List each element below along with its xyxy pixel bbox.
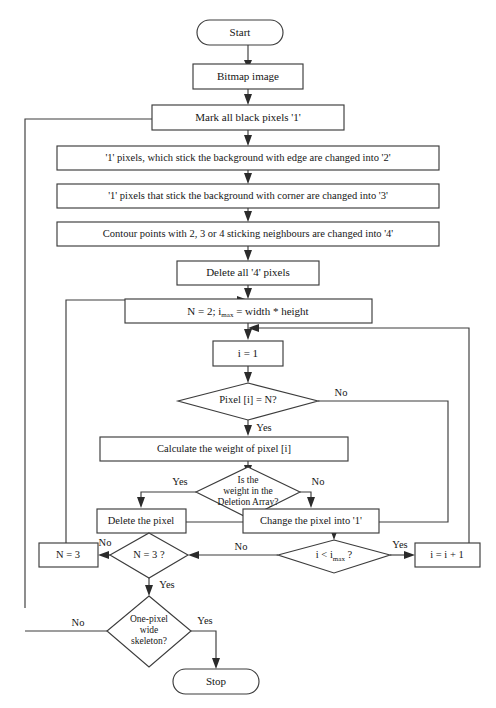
arrowhead-deletion-yes <box>137 497 145 508</box>
edge-label-n3-no: No <box>99 537 112 548</box>
flowchart-canvas: Start Bitmap image Mark all black pixels… <box>0 0 496 708</box>
node-init-n: N = 2; imax = width * height <box>125 299 372 323</box>
node-mark-black-pixels: Mark all black pixels '1' <box>152 105 344 130</box>
edge-label-pixel-no: No <box>335 387 348 398</box>
edge-label-skeleton-yes: Yes <box>197 615 212 626</box>
node-bitmap-image: Bitmap image <box>193 64 303 89</box>
arrowhead-contour4-to-delete4 <box>244 250 252 261</box>
node-init-i: i = 1 <box>213 341 283 366</box>
node-corner-to-3: '1' pixels that stick the background wit… <box>57 184 439 208</box>
edge-label-imax-yes: Yes <box>392 539 407 550</box>
incr-i-label: i = i + 1 <box>430 549 463 560</box>
arrowhead-mark-to-edge2 <box>244 135 252 146</box>
one-pixel-skeleton-label-line3: skeleton? <box>131 636 167 646</box>
bitmap-label: Bitmap image <box>217 70 279 82</box>
deletion-array-label-line2: weight in the <box>223 486 273 496</box>
corner-to-3-label: '1' pixels that stick the background wit… <box>108 190 388 201</box>
init-n-label: N = 2; imax = width * height <box>187 304 308 318</box>
node-incr-i: i = i + 1 <box>415 543 480 567</box>
flowchart-svg: Start Bitmap image Mark all black pixels… <box>0 0 496 708</box>
arrowhead-n3-yes <box>145 585 153 596</box>
delete-pixel-label: Delete the pixel <box>108 515 175 526</box>
node-set-n3: N = 3 <box>39 543 98 567</box>
edge-label-skeleton-no: No <box>72 617 85 628</box>
edge-skeleton-yes <box>191 631 216 660</box>
i-lt-imax-suffix: ? <box>345 549 353 560</box>
arrowhead-skeleton-yes <box>212 658 220 669</box>
edge-label-deletion-no: No <box>312 476 325 487</box>
edge-deletion-yes <box>141 492 196 498</box>
deletion-array-label-line1: Is the <box>238 475 259 485</box>
edge-label-imax-no: No <box>235 541 248 552</box>
edge-label-n3-yes: Yes <box>159 579 174 590</box>
init-n-subscript: max <box>221 310 234 318</box>
arrowhead-imax-no <box>188 551 199 559</box>
arrowhead-corner3-to-contour4 <box>244 211 252 222</box>
node-delete-pixel: Delete the pixel <box>97 509 186 533</box>
change-pixel-label: Change the pixel into '1' <box>260 515 362 526</box>
node-delete-all-4: Delete all '4' pixels <box>177 261 319 285</box>
arrowhead-n3-no <box>98 551 109 559</box>
init-n-suffix: = width * height <box>233 304 308 316</box>
edge-to-2-label: '1' pixels, which stick the background w… <box>105 152 390 163</box>
stop-label: Stop <box>206 675 227 687</box>
i-lt-imax-subscript: max <box>333 555 346 563</box>
start-label: Start <box>230 26 251 38</box>
node-start: Start <box>197 20 283 45</box>
arrowhead-pixeln-yes <box>244 425 252 436</box>
node-i-lt-imax: i < imax ? <box>278 540 390 573</box>
node-calc-weight: Calculate the weight of pixel [i] <box>100 437 348 461</box>
node-contour-to-4: Contour points with 2, 3 or 4 sticking n… <box>57 222 439 246</box>
edge-setn3-feedback <box>66 300 240 543</box>
node-pixel-eq-n: Pixel [i] = N? <box>178 383 318 420</box>
set-n3-label: N = 3 <box>56 549 80 560</box>
node-n-eq-3-question: N = 3 ? <box>110 533 188 578</box>
node-stop: Stop <box>173 669 259 694</box>
n-eq-3-question-label: N = 3 ? <box>133 549 165 560</box>
mark-black-label: Mark all black pixels '1' <box>195 111 300 123</box>
edge-label-pixel-yes: Yes <box>256 422 271 433</box>
pixel-eq-n-label: Pixel [i] = N? <box>219 394 277 405</box>
arrowhead-edge2-to-corner3 <box>244 173 252 184</box>
arrowhead-bitmap-to-mark <box>244 94 252 105</box>
arrowhead-deletion-no <box>307 497 315 508</box>
one-pixel-skeleton-label-line1: One-pixel <box>130 614 168 624</box>
arrowhead-delete4-to-initn <box>244 288 252 299</box>
contour-to-4-label: Contour points with 2, 3 or 4 sticking n… <box>103 228 394 239</box>
arrowhead-imax-yes <box>404 551 415 559</box>
arrowhead-initn-to-initi <box>244 329 252 340</box>
node-edge-to-2: '1' pixels, which stick the background w… <box>57 146 439 170</box>
edge-label-deletion-yes: Yes <box>172 476 187 487</box>
deletion-array-label-line3: Deletion Array? <box>218 497 279 507</box>
calc-weight-label: Calculate the weight of pixel [i] <box>157 443 291 454</box>
node-one-pixel-skeleton: One-pixel wide skeleton? <box>107 596 191 667</box>
one-pixel-skeleton-label-line2: wide <box>140 625 158 635</box>
node-change-pixel: Change the pixel into '1' <box>243 509 379 533</box>
init-n-prefix: N = 2; i <box>187 304 221 316</box>
init-i-label: i = 1 <box>238 347 258 359</box>
delete-all-4-label: Delete all '4' pixels <box>206 266 290 278</box>
arrowhead-initi-to-pixeln <box>244 372 252 383</box>
i-lt-imax-prefix: i < i <box>316 549 333 560</box>
